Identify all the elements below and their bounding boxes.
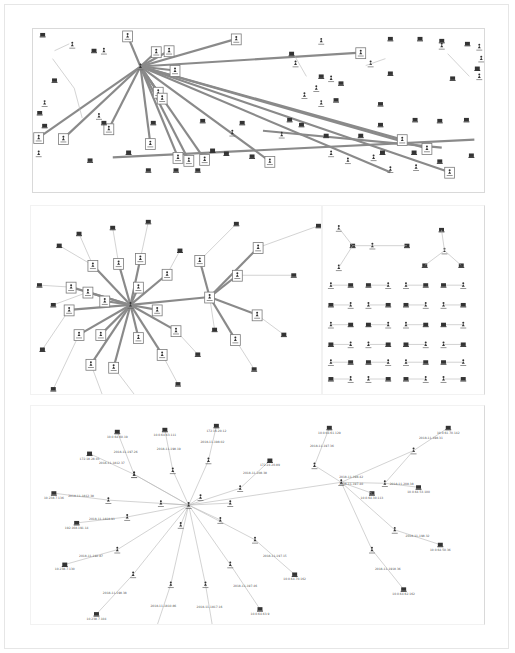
person-body: [440, 45, 443, 47]
host-node: [458, 263, 464, 267]
user-caption-bar: [232, 343, 238, 344]
monitor-base: [365, 326, 371, 327]
user-node: [413, 164, 419, 171]
user-caption-bar: [234, 278, 240, 279]
monitor-base: [318, 78, 324, 79]
graph-edge: [53, 59, 75, 89]
host-node: [173, 168, 179, 172]
user-caption-bar: [476, 79, 482, 80]
person-body: [313, 464, 316, 466]
user-caption-bar: [424, 151, 430, 152]
user-caption-bar: [186, 163, 192, 164]
host-node: 10.0.64.50.36: [430, 543, 451, 552]
user-node: [460, 282, 466, 289]
computer-monitor-icon: [461, 377, 466, 380]
user-caption-bar: [135, 341, 141, 342]
user-node: [42, 100, 48, 107]
monitor-base: [422, 267, 428, 268]
user-node: [478, 56, 484, 63]
graph-edge: [339, 228, 353, 246]
person-icon: [38, 151, 40, 153]
user-node: [441, 376, 447, 383]
person-body: [480, 58, 483, 60]
user-caption-bar: [76, 338, 82, 339]
user-node: [200, 154, 210, 165]
graph-edge: [448, 54, 470, 77]
person-icon: [170, 581, 172, 583]
user-node: [104, 124, 114, 135]
computer-monitor-icon: [348, 283, 353, 286]
user-caption-bar: [203, 587, 209, 588]
user-caption-bar: [423, 347, 429, 348]
host-node: [42, 124, 48, 128]
graph-edge: [200, 224, 237, 261]
edge-label: 2018-11-1818.91: [89, 517, 115, 521]
person-icon: [441, 43, 443, 45]
host-node: [126, 151, 132, 155]
user-caption-bar: [36, 156, 42, 157]
user-caption-bar: [173, 334, 179, 335]
computer-monitor-icon: [88, 158, 93, 161]
computer-monitor-icon: [101, 121, 106, 124]
computer-monitor-icon: [115, 430, 120, 433]
edge-label: 2018-11-198.31: [419, 436, 443, 440]
monitor-base: [328, 346, 334, 347]
user-node: [423, 302, 429, 309]
person-icon: [209, 294, 211, 296]
person-body: [179, 524, 182, 526]
person-icon: [394, 527, 396, 529]
host-node: [365, 323, 371, 327]
user-caption-bar: [369, 249, 375, 250]
monitor-base: [423, 326, 429, 327]
monitor-base: [378, 106, 384, 107]
panel-small-components-grid: [322, 205, 485, 395]
host-label: 10.0.64.62.162: [392, 592, 415, 596]
person-icon: [92, 262, 94, 264]
monitor-base: [437, 122, 443, 123]
person-icon: [204, 156, 206, 158]
host-node: [195, 352, 201, 356]
user-caption-bar: [42, 106, 48, 107]
user-caption-bar: [403, 288, 409, 289]
computer-monitor-icon: [437, 159, 442, 162]
user-caption-bar: [175, 160, 181, 161]
monitor-base: [251, 371, 257, 372]
person-body: [280, 134, 283, 136]
computer-monitor-icon: [62, 563, 67, 566]
host-node: [450, 76, 456, 80]
graph-edge: [173, 470, 189, 505]
host-node: [210, 149, 216, 153]
user-caption-bar: [106, 132, 112, 133]
host-node: [423, 323, 429, 327]
user-node: [88, 260, 98, 271]
host-node: [249, 154, 255, 158]
host-node: [348, 360, 354, 364]
host-node: [318, 74, 324, 78]
edge-label: 2018-11-198.38: [103, 591, 127, 595]
computer-monitor-icon: [57, 244, 62, 247]
host-node: 10.0.61.70.142: [437, 426, 460, 435]
person-icon: [236, 272, 238, 274]
user-node: [385, 359, 391, 366]
person-icon: [384, 480, 386, 482]
host-label: 10.0.64.53.100: [407, 490, 430, 494]
user-node: [83, 287, 93, 298]
computer-monitor-icon: [423, 360, 428, 363]
monitor-base: [40, 36, 46, 37]
user-caption-bar: [90, 268, 96, 269]
person-icon: [38, 135, 40, 137]
user-node: [369, 243, 375, 250]
person-body: [370, 549, 373, 551]
person-body: [372, 156, 375, 158]
user-node: [365, 376, 371, 383]
user-caption-bar: [441, 347, 447, 348]
user-node: [64, 305, 74, 316]
person-icon: [180, 522, 182, 524]
monitor-base: [200, 122, 206, 123]
person-icon: [462, 322, 464, 324]
computer-monitor-icon: [177, 249, 182, 252]
monitor-base: [323, 137, 329, 138]
graph-edge: [189, 482, 342, 505]
person-body: [229, 564, 232, 566]
monitor-base: [36, 287, 42, 288]
